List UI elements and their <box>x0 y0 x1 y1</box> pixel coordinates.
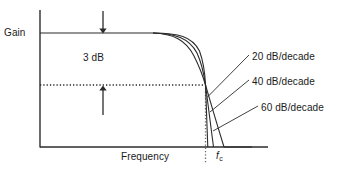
leader-line-20db <box>208 55 250 97</box>
three-db-annotation: 3 dB <box>83 52 104 63</box>
three-db-lower-arrow <box>99 85 106 115</box>
rolloff-curve-60db <box>153 33 208 147</box>
filter-response-figure: Gain 3 dB Frequency 20 dB/decade 40 dB/d… <box>0 0 345 175</box>
slope-60db-annotation: 60 dB/decade <box>261 102 324 113</box>
rolloff-curve-40db <box>153 33 214 147</box>
three-db-upper-arrow <box>99 11 106 34</box>
plot-canvas <box>0 0 345 175</box>
leader-line-60db <box>213 106 258 131</box>
cutoff-subscript: c <box>219 155 223 162</box>
x-axis-label: Frequency <box>121 151 169 162</box>
cutoff-frequency-label: fc <box>216 150 223 162</box>
rolloff-curve-20db <box>153 33 224 147</box>
slope-20db-annotation: 20 dB/decade <box>252 51 315 62</box>
slope-40db-annotation: 40 dB/decade <box>252 76 315 87</box>
y-axis-label: Gain <box>4 27 26 38</box>
leader-line-40db <box>210 80 249 112</box>
